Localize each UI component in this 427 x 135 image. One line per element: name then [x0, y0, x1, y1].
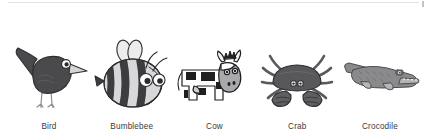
gallery-item-bumblebee[interactable]: Bumblebee — [91, 38, 173, 132]
bumblebee-illustration — [91, 38, 173, 112]
gallery-item-cow[interactable]: Cow — [174, 38, 256, 132]
gallery-item-bird[interactable]: Bird — [8, 38, 90, 132]
gallery-item-label: Crocodile — [362, 121, 398, 132]
gallery-item-label: Bird — [41, 121, 56, 132]
gallery-item-crocodile[interactable]: Crocodile — [339, 38, 421, 132]
crocodile-illustration — [339, 38, 421, 112]
bird-illustration — [8, 38, 90, 112]
crab-illustration — [256, 38, 338, 112]
gallery-item-label: Bumblebee — [110, 121, 153, 132]
gallery-item-label: Crab — [288, 121, 306, 132]
cow-illustration — [174, 38, 256, 112]
animal-gallery: Bird — [0, 14, 427, 132]
gallery-item-crab[interactable]: Crab — [256, 38, 338, 132]
gallery-item-label: Cow — [206, 121, 223, 132]
corner-mark — [422, 1, 424, 7]
animal-picture-strip: Bird — [0, 0, 427, 135]
top-divider — [8, 2, 419, 3]
